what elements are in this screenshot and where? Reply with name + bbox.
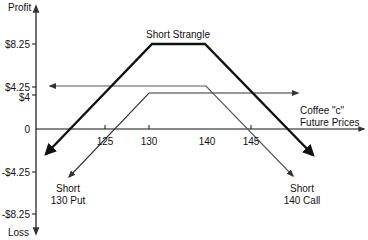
x-axis-title-line2: Future Prices (300, 117, 359, 128)
x-tick-125: 125 (97, 136, 114, 147)
x-tick-145: 145 (243, 136, 260, 147)
put-label-line2: 130 Put (51, 195, 85, 206)
y-tick-4: $4 (0, 92, 30, 103)
y-tick-0: 0 (0, 124, 30, 135)
y-tick-8-25: $8.25 (0, 39, 30, 50)
x-tick-130: 130 (141, 136, 158, 147)
y-tick-neg-4-25: -$4.25 (0, 167, 30, 178)
call-label-line1: Short (290, 183, 314, 194)
series-short-140-call (50, 86, 293, 176)
series-short-strangle (46, 44, 313, 155)
y-tick-neg-8-25: -$8.25 (0, 209, 30, 220)
profit-label: Profit (8, 2, 31, 13)
x-tick-140: 140 (199, 136, 216, 147)
short-strangle-label: Short Strangle (146, 29, 210, 40)
x-axis-title-line1: Coffee "c" (300, 105, 344, 116)
x-ticks (105, 125, 251, 129)
loss-label: Loss (8, 227, 29, 238)
call-label-line2: 140 Call (284, 195, 321, 206)
put-label-line1: Short (56, 183, 80, 194)
